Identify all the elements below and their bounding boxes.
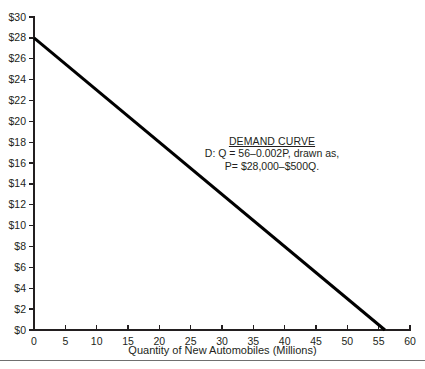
annotation-title: DEMAND CURVE (229, 135, 315, 147)
demand-curve-annotation: DEMAND CURVE D: Q = 56–0.002P, drawn as,… (196, 135, 348, 172)
demand-curve-line (0, 0, 425, 369)
bottom-divider (0, 360, 425, 361)
annotation-equation-line-2: P= $28,000–$500Q. (196, 160, 348, 172)
x-axis-title: Quantity of New Automobiles (Millions) (34, 344, 411, 356)
annotation-title-line: DEMAND CURVE (196, 135, 348, 147)
annotation-equation-line-1: D: Q = 56–0.002P, drawn as, (196, 147, 348, 159)
demand-curve-figure: $0$2$4$6$8$10$12$14$16$18$20$22$24$26$28… (0, 0, 425, 369)
